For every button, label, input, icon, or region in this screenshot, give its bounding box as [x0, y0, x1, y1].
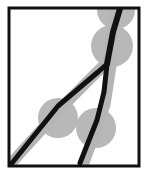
figure-container — [0, 0, 148, 179]
junction-diagram-svg — [0, 0, 148, 179]
